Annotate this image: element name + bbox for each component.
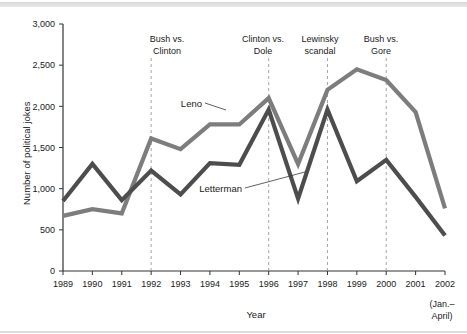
y-tick-label: 3,000 bbox=[32, 19, 55, 29]
y-tick-label: 500 bbox=[40, 225, 55, 235]
x-ticks: 1989199019911992199319941995199619971998… bbox=[53, 271, 455, 289]
x-tick-label-2000: 2000 bbox=[376, 279, 396, 289]
x-tick-label-1996: 1996 bbox=[259, 279, 279, 289]
chart-svg: 05001,0001,5002,0002,5003,000 1989199019… bbox=[0, 0, 467, 334]
annotation-lewinsky-scandal-line2: scandal bbox=[304, 46, 335, 56]
x-tick-label-2001: 2001 bbox=[406, 279, 426, 289]
x-tick-label-2002: 2002 bbox=[435, 279, 455, 289]
annotation-clinton-vs-dole-line1: Clinton vs. bbox=[242, 34, 284, 44]
annotation-bush-vs-clinton-line1: Bush vs. bbox=[150, 34, 185, 44]
x-tick-label-1992: 1992 bbox=[141, 279, 161, 289]
x-tick-label-1999: 1999 bbox=[347, 279, 367, 289]
y-tick-label: 0 bbox=[50, 266, 55, 276]
x-tick-2002-sublabel-line1: (Jan.– bbox=[429, 299, 454, 309]
x-tick-label-1998: 1998 bbox=[317, 279, 337, 289]
annotation-bush-vs-clinton-line2: Clinton bbox=[153, 46, 181, 56]
political-jokes-line-chart: 05001,0001,5002,0002,5003,000 1989199019… bbox=[0, 0, 467, 334]
y-tick-label: 1,500 bbox=[32, 143, 55, 153]
x-tick-2002-sublabel-line2: April) bbox=[431, 311, 452, 321]
x-tick-label-1990: 1990 bbox=[82, 279, 102, 289]
annotation-lewinsky-scandal-line1: Lewinsky bbox=[301, 34, 339, 44]
y-axis-title: Number of political jokes bbox=[21, 101, 32, 205]
series-label-letterman: Letterman bbox=[199, 183, 242, 194]
series-label-leno: Leno bbox=[181, 98, 202, 109]
y-ticks: 05001,0001,5002,0002,5003,000 bbox=[32, 19, 63, 276]
x-tick-label-1989: 1989 bbox=[53, 279, 73, 289]
y-tick-label: 2,500 bbox=[32, 60, 55, 70]
annotation-bush-vs-gore-line2: Gore bbox=[371, 46, 391, 56]
x-tick-label-1995: 1995 bbox=[229, 279, 249, 289]
x-tick-label-1994: 1994 bbox=[200, 279, 220, 289]
annotation-bush-vs-gore-line1: Bush vs. bbox=[364, 34, 399, 44]
y-tick-label: 2,000 bbox=[32, 102, 55, 112]
y-tick-label: 1,000 bbox=[32, 184, 55, 194]
plot-area-background bbox=[63, 24, 445, 271]
x-tick-label-1997: 1997 bbox=[288, 279, 308, 289]
x-tick-label-1991: 1991 bbox=[112, 279, 132, 289]
x-axis-title: Year bbox=[246, 309, 265, 320]
x-tick-label-1993: 1993 bbox=[171, 279, 191, 289]
annotation-clinton-vs-dole-line2: Dole bbox=[254, 46, 273, 56]
